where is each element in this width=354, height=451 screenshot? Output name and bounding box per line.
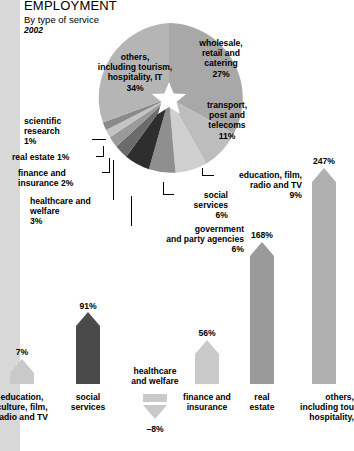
bar-body-others <box>312 182 336 384</box>
leader-line-healthcare <box>113 160 114 200</box>
leader-line-real-estate-stem <box>103 146 104 157</box>
leader-line-social <box>163 194 174 195</box>
bar-body-healthcare <box>143 394 167 402</box>
bar-value-education: 7% <box>0 347 52 357</box>
leader-line-social-stem <box>163 182 164 195</box>
pie-label-wholesale: wholesale, retail and catering 27% <box>186 38 256 79</box>
bar-body-education <box>10 373 34 384</box>
page-title: EMPLOYMENT <box>24 0 214 13</box>
bar-body-finance <box>195 354 219 384</box>
bar-arrowhead-others <box>312 168 336 182</box>
leader-line-education <box>202 175 214 176</box>
pie-label-finance: finance and insurance 2% <box>18 168 100 188</box>
bar-arrowhead-social-services <box>76 312 100 326</box>
bar-value-social-services: 91% <box>58 301 118 311</box>
bar-label-others: others, including tou hospitality, <box>284 392 354 423</box>
bar-arrowhead-education <box>10 359 34 373</box>
leader-line-government <box>131 196 132 226</box>
pie-label-education: education, film, radio and TV 9% <box>216 170 302 201</box>
bar-arrowhead-healthcare <box>143 405 167 419</box>
bar-value-real-estate: 168% <box>232 230 292 240</box>
leader-line-scientific <box>92 139 106 140</box>
bar-body-real-estate <box>250 256 274 384</box>
bar-label-healthcare: healthcare and welfare <box>115 366 195 386</box>
leader-line-finance-stem <box>109 158 110 173</box>
pie-label-social-services: social services 6% <box>176 190 228 221</box>
bar-value-healthcare: –8% <box>125 424 185 434</box>
bar-value-finance: 56% <box>177 328 237 338</box>
pie-label-scientific-research: scientific research 1% <box>24 116 90 147</box>
bar-arrowhead-real-estate <box>250 242 274 256</box>
bar-body-social-services <box>76 326 100 384</box>
pie-label-others: others, including tourism, hospitality, … <box>86 52 184 93</box>
pie-label-real-estate: real estate 1% <box>12 152 94 162</box>
bar-value-others: 247% <box>294 156 354 166</box>
bar-label-social-services: social services <box>48 392 128 412</box>
pie-label-transport: transport, post and telecoms 11% <box>194 100 260 141</box>
pie-label-healthcare: healthcare and welfare 3% <box>30 196 112 227</box>
leader-line-education-stem <box>202 168 203 176</box>
bar-arrowhead-finance <box>195 340 219 354</box>
growth-bar-chart: 7% education, culture, film, radio and T… <box>0 250 354 451</box>
